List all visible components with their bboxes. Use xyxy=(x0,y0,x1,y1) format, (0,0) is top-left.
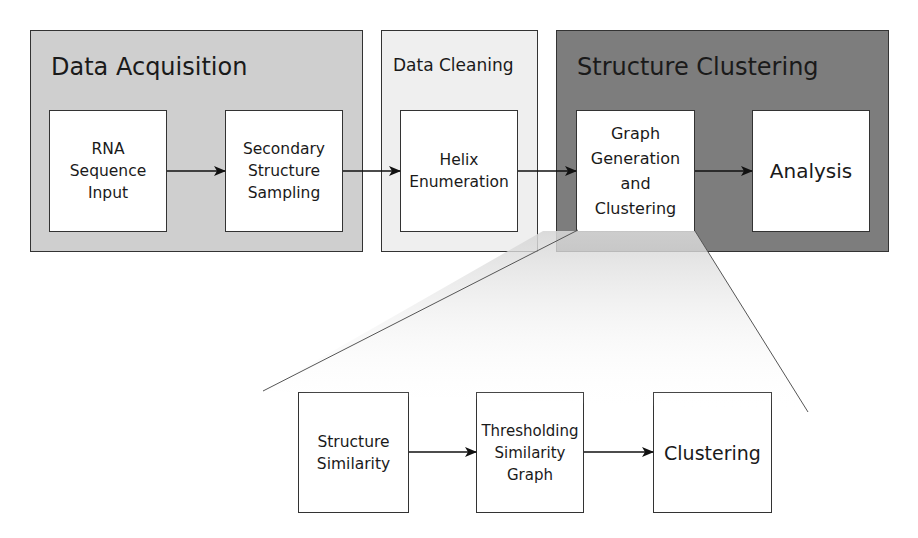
step-label: Secondary Structure Sampling xyxy=(243,138,325,204)
step-graph-generation-and-clustering: Graph Generation and Clustering xyxy=(576,110,695,232)
step-rna-sequence-input: RNA Sequence Input xyxy=(49,110,167,232)
step-label: RNA Sequence Input xyxy=(70,138,146,204)
zoom-fan-shade xyxy=(263,231,808,412)
step-label: Analysis xyxy=(770,160,852,182)
step-label: Thresholding Similarity Graph xyxy=(481,420,578,486)
step-label: Clustering xyxy=(664,442,761,464)
detail-step-structure-similarity: Structure Similarity xyxy=(298,392,409,513)
stage-title-data-cleaning: Data Cleaning xyxy=(393,55,514,75)
step-helix-enumeration: Helix Enumeration xyxy=(400,110,518,232)
zoom-line-right xyxy=(695,231,808,412)
detail-step-clustering: Clustering xyxy=(653,392,772,513)
step-secondary-structure-sampling: Secondary Structure Sampling xyxy=(225,110,343,232)
zoom-line-left xyxy=(263,230,578,391)
step-label: Helix Enumeration xyxy=(409,149,509,193)
step-label: Structure Similarity xyxy=(317,431,390,475)
step-label: Graph Generation and Clustering xyxy=(591,121,680,221)
stage-title-data-acquisition: Data Acquisition xyxy=(51,53,247,81)
stage-title-structure-clustering: Structure Clustering xyxy=(577,53,819,81)
step-analysis: Analysis xyxy=(752,110,870,232)
detail-step-thresholding-similarity-graph: Thresholding Similarity Graph xyxy=(476,392,584,513)
